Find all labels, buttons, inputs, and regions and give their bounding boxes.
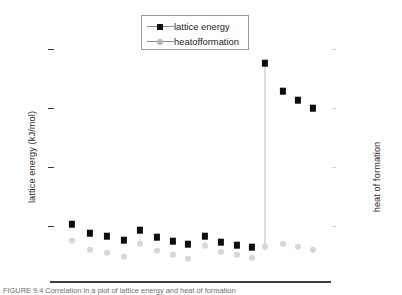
data-point-heat-of-formation-5 — [154, 248, 160, 254]
data-point-lattice-energy-6 — [170, 238, 176, 245]
circle-marker-icon — [147, 36, 174, 47]
x-axis-line — [50, 281, 331, 283]
chart-legend: lattice energy heatofformation — [141, 15, 249, 50]
data-point-heat-of-formation-10 — [234, 252, 240, 258]
data-point-lattice-energy-4 — [137, 227, 143, 234]
data-point-lattice-energy-10 — [234, 242, 240, 249]
data-point-heat-of-formation-1 — [87, 247, 93, 253]
y-axis-right-title: heat of formation — [372, 102, 382, 252]
data-point-lattice-energy-1 — [87, 230, 93, 237]
data-point-lattice-energy-14 — [295, 97, 301, 104]
data-point-lattice-energy-5 — [154, 234, 160, 241]
data-point-heat-of-formation-11 — [249, 255, 255, 261]
data-point-heat-of-formation-4 — [137, 241, 143, 247]
connector-line — [265, 66, 266, 247]
data-point-heat-of-formation-0 — [69, 238, 75, 244]
data-point-lattice-energy-15 — [310, 105, 316, 112]
data-point-heat-of-formation-3 — [121, 254, 127, 260]
figure-caption: FIGURE 9.4 Correlation in a plot of latt… — [3, 286, 399, 295]
y-axis-right-tick-3 — [332, 226, 336, 227]
data-point-heat-of-formation-8 — [202, 243, 208, 249]
y-axis-left-tick-1 — [48, 108, 54, 109]
data-point-lattice-energy-9 — [218, 239, 224, 246]
legend-item-lattice-energy: lattice energy — [142, 19, 248, 34]
data-point-lattice-energy-11 — [249, 244, 255, 251]
square-marker-icon — [147, 21, 174, 32]
data-point-heat-of-formation-13 — [280, 241, 286, 247]
legend-label-heat-of-formation: heatofformation — [174, 36, 239, 47]
data-point-lattice-energy-0 — [69, 221, 75, 228]
data-point-lattice-energy-8 — [202, 233, 208, 240]
data-point-heat-of-formation-6 — [170, 252, 176, 258]
y-axis-right-tick-2 — [332, 167, 336, 168]
data-point-heat-of-formation-14 — [295, 244, 301, 250]
data-point-lattice-energy-7 — [185, 241, 191, 248]
y-axis-left-title: lattice energy (kJ/mol) — [27, 72, 37, 242]
connector-stem — [265, 66, 266, 246]
y-axis-right-tick-1 — [332, 108, 336, 109]
data-point-heat-of-formation-7 — [185, 256, 191, 262]
y-axis-left-tick-3 — [48, 226, 54, 227]
y-axis-left-tick-0 — [48, 49, 54, 50]
connector-stem — [140, 233, 141, 243]
data-point-lattice-energy-2 — [104, 233, 110, 240]
y-axis-left-tick-2 — [48, 167, 54, 168]
data-point-heat-of-formation-2 — [104, 250, 110, 256]
data-point-lattice-energy-3 — [121, 237, 127, 244]
legend-label-lattice-energy: lattice energy — [174, 21, 230, 32]
data-point-heat-of-formation-12 — [262, 244, 268, 250]
data-point-heat-of-formation-15 — [310, 247, 316, 253]
data-point-lattice-energy-12 — [262, 60, 268, 67]
y-axis-right-tick-0 — [332, 49, 336, 50]
legend-item-heat-of-formation: heatofformation — [142, 34, 248, 49]
data-point-heat-of-formation-9 — [218, 249, 224, 255]
data-point-lattice-energy-13 — [280, 88, 286, 95]
connector-stem — [205, 239, 206, 245]
